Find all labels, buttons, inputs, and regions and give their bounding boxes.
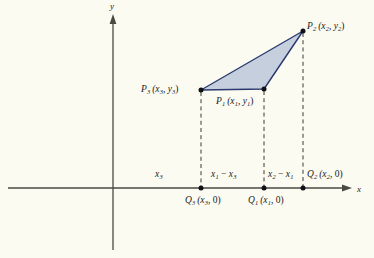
segment-label-x1-minus-x3: x1 − x3 — [211, 170, 236, 180]
point-label-p2: P2 (x2, y2) — [307, 22, 345, 32]
y-axis-arrowhead — [110, 14, 117, 24]
point-label-p3: P3 (x3, y3) — [141, 85, 179, 95]
x-axis-label: x — [357, 185, 361, 194]
triangle-p1-p2-p3 — [201, 31, 303, 90]
coordinate-geometry-figure: y x P2 (x2, y2) P3 (x3, y3) P1 (x1, y1) … — [0, 0, 374, 258]
point-label-q2: Q2 (x2, 0) — [307, 170, 343, 180]
segment-label-x3: x3 — [155, 170, 163, 180]
foot-dot-q1 — [262, 186, 267, 191]
diagram-canvas — [0, 0, 374, 258]
y-axis-label: y — [110, 2, 114, 11]
perpendicular-dropline-group — [201, 33, 303, 187]
vertex-dot-p3 — [199, 88, 204, 93]
foot-dot-q2 — [301, 186, 306, 191]
point-label-q3: Q3 (x3, 0) — [185, 196, 221, 206]
vertex-dot-p2 — [301, 29, 306, 34]
y-axis — [110, 14, 117, 250]
point-label-q1: Q1 (x1, 0) — [248, 196, 284, 206]
x-axis-arrowhead — [342, 185, 352, 192]
segment-label-x2-minus-x1: x2 − x1 — [268, 170, 293, 180]
point-label-p1: P1 (x1, y1) — [216, 97, 254, 107]
x-axis — [8, 185, 352, 192]
foot-dot-q3 — [199, 186, 204, 191]
vertex-dot-p1 — [262, 87, 267, 92]
